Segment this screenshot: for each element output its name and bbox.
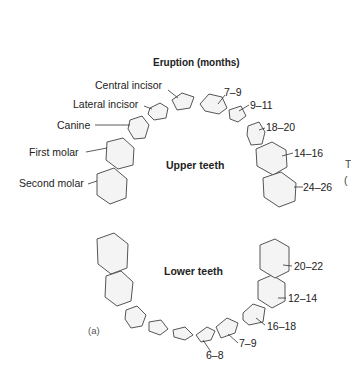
upper-eruption-lateral: 9–11 [250, 100, 273, 111]
edge-fragment-1: T [345, 159, 351, 170]
upper-right-canine [247, 122, 265, 145]
lower-right-second-molar [260, 239, 289, 278]
diagram-title: Eruption (months) [153, 58, 240, 68]
label-lateral-incisor: Lateral incisor [73, 99, 138, 110]
lower-right-first-molar [258, 275, 285, 308]
upper-eruption-first-molar: 14–16 [294, 148, 323, 159]
upper-eruption-canine: 18–20 [266, 122, 295, 133]
lower-right-canine [243, 304, 265, 325]
lower-eruption-canine: 16–18 [267, 321, 296, 332]
label-second-molar: Second molar [19, 178, 84, 189]
lower-left-central-incisor [173, 327, 193, 340]
upper-left-lateral-incisor [148, 103, 168, 120]
lower-eruption-second-molar: 20–22 [294, 261, 323, 272]
upper-eruption-central: 7–9 [224, 87, 242, 98]
panel-label: (a) [88, 326, 100, 336]
upper-eruption-second-molar: 24–26 [303, 182, 332, 193]
lower-eruption-central: 6–8 [206, 350, 224, 361]
lower-teeth-heading: Lower teeth [164, 266, 223, 277]
lower-right-central-incisor [196, 327, 215, 342]
label-central-incisor: Central incisor [95, 80, 162, 91]
upper-teeth-heading: Upper teeth [166, 160, 224, 171]
lower-eruption-lateral: 7–9 [239, 338, 257, 349]
lower-left-lateral-incisor [149, 320, 168, 335]
lower-eruption-first-molar: 12–14 [288, 293, 317, 304]
upper-left-second-molar [97, 168, 127, 204]
label-first-molar: First molar [29, 147, 79, 158]
lower-left-first-molar [105, 271, 133, 306]
label-canine: Canine [57, 120, 90, 131]
lower-left-canine [125, 306, 146, 328]
upper-left-first-molar [106, 138, 134, 169]
upper-right-second-molar [263, 172, 296, 207]
edge-fragment-2: ( [344, 175, 348, 186]
lower-right-lateral-incisor [216, 318, 238, 338]
lower-left-second-molar [97, 233, 128, 274]
upper-left-canine [128, 116, 149, 139]
upper-right-first-molar [256, 142, 287, 175]
